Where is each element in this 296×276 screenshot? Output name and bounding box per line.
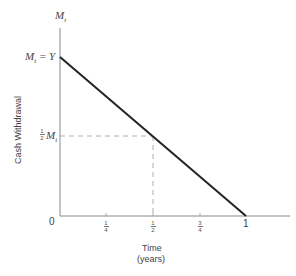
origin-label: 0 (49, 216, 55, 227)
y-axis-symbol: Mt (55, 9, 66, 24)
x-axis-label: Time (142, 243, 162, 253)
x-tick-label-three-quarter: 34 (195, 220, 205, 233)
y-top-value-label: Mt = Y (25, 50, 55, 65)
x-tick-label-one: 1 (243, 218, 249, 229)
y-axis-label: Cash Withdrawal (13, 90, 23, 170)
x-axis-unit: (years) (137, 254, 165, 264)
x-tick-label-quarter: 14 (101, 220, 111, 233)
x-tick-label-half: 12 (148, 220, 158, 233)
y-half-symbol: Mt (46, 129, 57, 144)
